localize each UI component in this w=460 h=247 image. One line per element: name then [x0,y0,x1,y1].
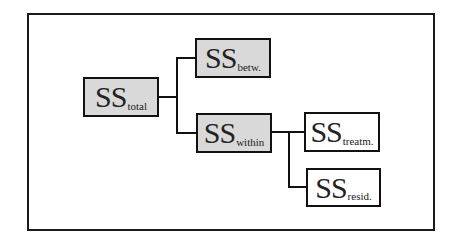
node-ss-total-sub: total [127,101,147,112]
connector-to-resid [288,186,307,188]
connector-total-h [158,96,178,98]
node-ss-within-sub: within [236,137,264,148]
connector-within-v [288,131,290,188]
node-ss-betw-main: SS [205,43,236,73]
node-ss-resid: SSresid. [306,168,381,207]
node-ss-betw: SSbetw. [195,38,271,78]
node-ss-betw-sub: betw. [237,62,260,73]
connector-to-within [176,132,196,134]
node-ss-resid-main: SS [315,173,346,203]
node-ss-within: SSwithin [196,113,272,153]
node-ss-total: SStotal [83,77,159,117]
node-ss-treatm: SStreatm. [304,112,380,152]
node-ss-total-main: SS [95,82,126,112]
node-ss-within-main: SS [204,118,235,148]
connector-total-v [176,57,178,134]
node-ss-resid-sub: resid. [348,191,372,202]
node-ss-treatm-sub: treatm. [343,136,374,147]
node-ss-treatm-main: SS [310,117,341,147]
connector-to-betw [176,57,196,59]
